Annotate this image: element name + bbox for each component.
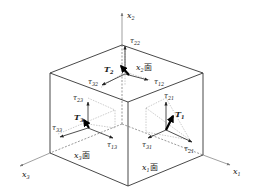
- label-tau32: τ32: [88, 78, 98, 87]
- label-tau21-bottom: τ21: [184, 145, 194, 154]
- stress-cube-diagram: x2 x3 x1 x2面 x3面 x1面 T2 T3 T1 τ22 τ32 τ1…: [0, 0, 256, 194]
- label-x1-face: x1面: [142, 163, 158, 173]
- label-tau13: τ13: [107, 141, 117, 150]
- label-x1: x1: [233, 167, 241, 177]
- label-T1: T1: [175, 109, 184, 120]
- x3-face-vectors: [58, 98, 115, 138]
- label-tau31: τ31: [142, 141, 152, 150]
- label-T2: T2: [104, 64, 114, 75]
- label-x3-face: x3面: [74, 151, 90, 161]
- label-T3: T3: [74, 112, 84, 123]
- label-tau33: τ33: [52, 124, 62, 133]
- x1-face-vectors: [146, 98, 192, 142]
- axis-x3: [20, 153, 50, 166]
- label-x2: x2: [127, 11, 135, 21]
- label-tau23: τ23: [73, 94, 83, 103]
- label-x2-face: x2面: [136, 63, 152, 73]
- axis-x1: [203, 155, 230, 165]
- label-tau22: τ22: [130, 37, 140, 46]
- label-x3: x3: [22, 170, 30, 180]
- label-tau21-top: τ21: [164, 92, 174, 101]
- label-tau12: τ12: [154, 78, 164, 87]
